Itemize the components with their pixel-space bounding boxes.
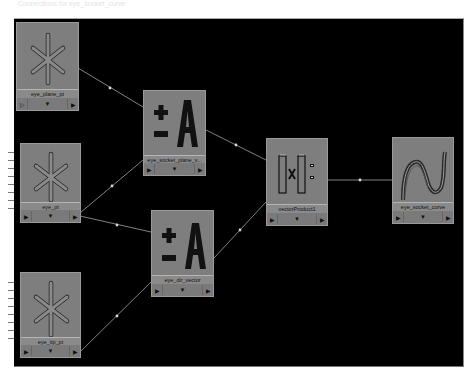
output-port-button[interactable]: ▶ — [316, 214, 327, 224]
node-ports: ▶ ▼ ▶ — [144, 163, 205, 175]
output-port-button[interactable]: ▶ — [67, 99, 78, 109]
node-ports: ▶ ▼ ▶ — [21, 210, 80, 222]
node-eye-socket-curve[interactable]: eye_socket_curve ▶ ▼ ▶ — [392, 137, 454, 224]
node-eye-socket-plane-v[interactable]: eye_socket_plane_v... ▶ ▼ ▶ — [143, 90, 206, 176]
node-ports: ▶ ▼ ▶ — [393, 211, 453, 223]
expand-attributes-button[interactable]: ▼ — [155, 164, 194, 174]
input-port-button[interactable]: ▶ — [21, 346, 32, 356]
input-port-button[interactable]: ▶ — [393, 212, 404, 222]
input-port-button[interactable]: ▷ — [17, 99, 28, 109]
expand-attributes-button[interactable]: ▼ — [163, 285, 202, 295]
attribute-stubs-eye-tip-pt — [8, 282, 14, 346]
output-port-button[interactable]: ▶ — [69, 211, 80, 221]
locator-asterisk-icon — [21, 144, 82, 202]
expand-attributes-button[interactable]: ▼ — [278, 214, 316, 224]
output-port-button[interactable]: ▶ — [69, 346, 80, 356]
node-vector-product[interactable]: vectorProduct1 ▶ ▼ ▶ — [266, 138, 328, 226]
expand-attributes-button[interactable]: ▼ — [404, 212, 442, 222]
node-eye-dir-vector[interactable]: eye_dir_vector ▶ ▼ ▶ — [151, 210, 214, 297]
node-ports: ▶ ▼ ▶ — [152, 284, 213, 296]
attribute-stubs-eye-pt — [8, 152, 14, 216]
nurbs-curve-icon — [393, 138, 455, 202]
node-ports: ▷ ▼ ▶ — [17, 98, 78, 110]
input-port-button[interactable]: ▶ — [144, 164, 155, 174]
plus-minus-average-icon — [152, 211, 215, 275]
vector-product-icon — [267, 139, 329, 204]
panel-caption: Connections for eye_socket_curve — [18, 0, 125, 7]
input-port-button[interactable]: ▶ — [267, 214, 278, 224]
output-port-button[interactable]: ▶ — [202, 285, 213, 295]
input-port-button[interactable]: ▶ — [152, 285, 163, 295]
expand-attributes-button[interactable]: ▼ — [28, 99, 67, 109]
node-eye-pt[interactable]: eye_pt ▶ ▼ ▶ — [20, 143, 81, 223]
node-eye-tip-pt[interactable]: eye_tip_pt ▶ ▼ ▶ — [20, 272, 81, 358]
locator-asterisk-icon — [17, 23, 80, 89]
expand-attributes-button[interactable]: ▼ — [32, 346, 69, 356]
node-ports: ▶ ▼ ▶ — [267, 213, 327, 225]
output-port-button[interactable]: ▶ — [442, 212, 453, 222]
output-port-button[interactable]: ▶ — [194, 164, 205, 174]
input-port-button[interactable]: ▶ — [21, 211, 32, 221]
locator-asterisk-icon — [21, 273, 82, 337]
node-ports: ▶ ▼ ▶ — [21, 345, 80, 357]
plus-minus-average-icon — [144, 91, 207, 155]
node-eye-plane-pt[interactable]: eye_plane_pt ▷ ▼ ▶ — [16, 22, 79, 111]
expand-attributes-button[interactable]: ▼ — [32, 211, 69, 221]
